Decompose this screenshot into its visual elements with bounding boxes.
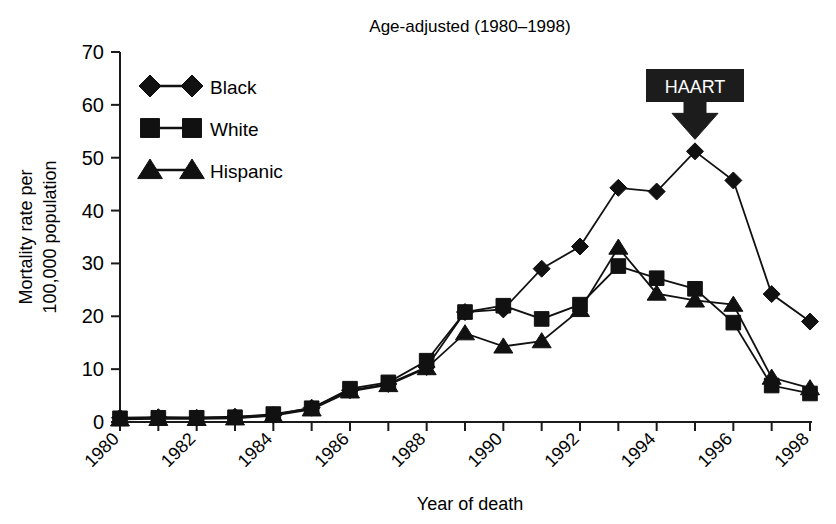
data-point-marker — [611, 259, 626, 274]
legend-label: Hispanic — [210, 161, 283, 182]
chart-title: Age-adjusted (1980–1998) — [369, 17, 570, 36]
data-point-marker — [534, 312, 549, 327]
y-tick-label: 40 — [82, 200, 104, 222]
data-point-marker — [458, 305, 473, 320]
y-tick-label: 50 — [82, 147, 104, 169]
data-point-marker — [496, 298, 511, 313]
haart-label-text: HAART — [665, 77, 726, 97]
y-tick-label: 10 — [82, 358, 104, 380]
chart-figure: Age-adjusted (1980–1998) 010203040506070… — [0, 0, 836, 524]
y-tick-label: 70 — [82, 41, 104, 63]
y-axis-title-line2: 100,000 population — [40, 160, 60, 313]
legend-label: Black — [210, 77, 257, 98]
y-tick-label: 60 — [82, 94, 104, 116]
data-point-marker — [726, 315, 741, 330]
legend-label: White — [210, 119, 259, 140]
legend-marker-square — [183, 119, 202, 138]
mortality-rate-line-chart: Age-adjusted (1980–1998) 010203040506070… — [0, 0, 836, 524]
legend-marker-square — [141, 119, 160, 138]
data-point-marker — [649, 271, 664, 286]
y-tick-label: 0 — [93, 411, 104, 433]
y-tick-label: 20 — [82, 305, 104, 327]
y-axis-title-line1: Mortality rate per — [16, 169, 36, 304]
legend-item-white: White — [141, 119, 259, 140]
y-tick-label: 30 — [82, 252, 104, 274]
x-axis-title: Year of death — [417, 494, 523, 514]
